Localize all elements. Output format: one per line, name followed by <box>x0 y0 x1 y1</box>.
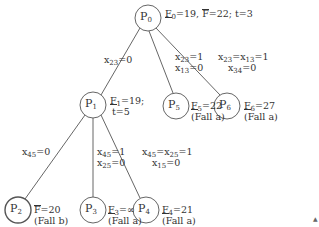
edge-label-p0-p1: x23=0 <box>104 54 132 65</box>
p3-annotation: F3=∞ (Fall a) <box>108 204 142 226</box>
p5-annotation: F5=22 (Fall a) <box>191 100 225 122</box>
stray-mark: ▲ <box>313 213 318 224</box>
edge-label-p0-p6: x23=x13=1 x34=0 <box>218 51 269 73</box>
node-p5-label: P5 <box>168 99 180 110</box>
p0-annotation: F0=19, F=22; t=3 <box>165 8 253 19</box>
node-p1-label: P1 <box>85 98 97 109</box>
edge-label-p1-p4: x45=x25=1 x15=0 <box>142 146 193 168</box>
node-p2-label: P2 <box>10 203 22 214</box>
p2-annotation: F=20 (Fall b) <box>34 204 68 226</box>
p4-annotation: F4=21 (Fall a) <box>162 204 196 226</box>
node-p3-label: P3 <box>85 203 97 214</box>
p6-annotation: F6=27 (Fall a) <box>244 100 278 122</box>
edge-p0-p5 <box>149 31 173 93</box>
edge-label-p1-p3: x45=1 x25=0 <box>97 146 125 168</box>
p1-annotation: F1=19; t=5 <box>110 95 144 117</box>
edge-label-p0-p5: x23=1 x13=0 <box>175 51 203 73</box>
edge-label-p1-p2: x45=0 <box>22 146 50 157</box>
node-p0-label: P0 <box>140 11 152 22</box>
